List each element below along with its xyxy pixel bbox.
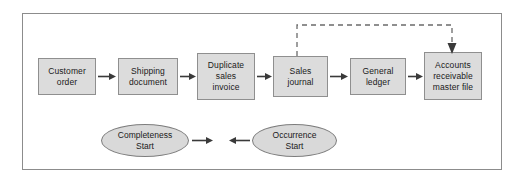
node-occurrence-start: Occurrence Start bbox=[252, 124, 337, 157]
node-general-ledger-label: General ledger bbox=[361, 66, 396, 88]
node-duplicate-sales-invoice-label: Duplicate sales invoice bbox=[206, 60, 246, 93]
arrow-shipping-document-to-duplicate-sales-invoice bbox=[180, 72, 197, 81]
arrow-general-ledger-to-accounts-receivable bbox=[408, 72, 424, 81]
node-sales-journal-label: Sales journal bbox=[285, 66, 315, 88]
dashed-sales-journal-to-accounts-receivable bbox=[290, 18, 465, 56]
diagram-canvas: Customer order Shipping document Duplica… bbox=[0, 0, 518, 183]
node-completeness-start-label: Completeness Start bbox=[118, 130, 172, 152]
node-general-ledger: General ledger bbox=[350, 58, 406, 95]
arrow-occurrence-start-left bbox=[227, 136, 250, 145]
arrow-customer-order-to-shipping-document bbox=[98, 72, 117, 81]
arrow-sales-journal-to-general-ledger bbox=[330, 72, 349, 81]
arrow-completeness-start-right bbox=[192, 136, 214, 145]
node-accounts-receivable-master-file: Accounts receivable master file bbox=[424, 52, 482, 100]
node-occurrence-start-label: Occurrence Start bbox=[273, 130, 317, 152]
node-sales-journal: Sales journal bbox=[273, 56, 328, 97]
node-customer-order-label: Customer order bbox=[46, 66, 88, 88]
node-completeness-start: Completeness Start bbox=[101, 124, 189, 157]
node-customer-order: Customer order bbox=[38, 58, 96, 95]
node-accounts-receivable-master-file-label: Accounts receivable master file bbox=[431, 60, 475, 93]
node-duplicate-sales-invoice: Duplicate sales invoice bbox=[197, 53, 255, 100]
arrow-duplicate-sales-invoice-to-sales-journal bbox=[257, 72, 273, 81]
node-shipping-document: Shipping document bbox=[118, 58, 178, 95]
node-shipping-document-label: Shipping document bbox=[127, 66, 169, 88]
